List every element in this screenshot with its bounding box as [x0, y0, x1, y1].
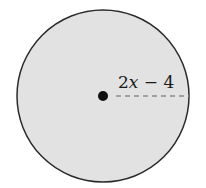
center-dot: [98, 91, 108, 101]
circle-diagram: 2x − 4: [0, 0, 206, 188]
radius-label-variable: x: [129, 72, 139, 92]
radius-label: 2x − 4: [118, 72, 174, 92]
radius-label-coefficient: 2: [118, 72, 129, 92]
radius-label-constant: 4: [163, 72, 174, 92]
radius-label-operator: −: [138, 72, 163, 92]
